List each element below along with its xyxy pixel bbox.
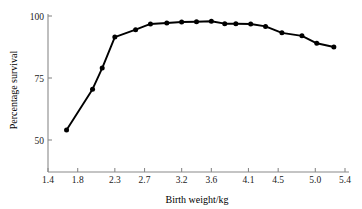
data-point-marker <box>64 128 69 133</box>
x-tick-label: 5.4 <box>339 175 351 185</box>
survival-line <box>67 21 334 130</box>
x-tick-label: 2.7 <box>139 175 151 185</box>
y-tick-label: 75 <box>35 74 45 84</box>
x-axis-ticks: 1.41.82.32.73.23.64.14.55.05.4 <box>42 168 351 185</box>
data-point-marker <box>100 66 105 71</box>
data-point-marker <box>179 19 184 24</box>
x-tick-label: 4.1 <box>243 175 255 185</box>
data-point-marker <box>299 33 304 38</box>
data-point-marker <box>263 24 268 29</box>
data-point-marker <box>148 21 153 26</box>
x-tick-label: 1.8 <box>72 175 84 185</box>
data-point-marker <box>164 20 169 25</box>
data-point-marker <box>233 21 238 26</box>
percentage-survival-line-chart: 1.41.82.32.73.23.64.14.55.05.4 1007550 B… <box>0 0 362 209</box>
data-point-marker <box>248 21 253 26</box>
x-tick-label: 1.4 <box>42 175 54 185</box>
data-point-marker <box>90 87 95 92</box>
data-point-marker <box>314 41 319 46</box>
x-tick-label: 5.0 <box>309 175 321 185</box>
x-tick-label: 4.5 <box>272 175 284 185</box>
y-axis-ticks: 1007550 <box>30 12 52 146</box>
data-point-marker <box>133 27 138 32</box>
data-series <box>64 19 336 133</box>
x-tick-label: 3.6 <box>205 175 217 185</box>
x-axis-title: Birth weight/kg <box>165 194 228 205</box>
data-point-marker <box>209 19 214 24</box>
chart-container: 1.41.82.32.73.23.64.14.55.05.4 1007550 B… <box>0 0 362 209</box>
y-tick-label: 50 <box>35 136 45 146</box>
data-point-marker <box>222 21 227 26</box>
x-tick-label: 3.2 <box>176 175 188 185</box>
data-point-marker <box>112 35 117 40</box>
data-point-marker <box>331 45 336 50</box>
y-tick-label: 100 <box>30 12 45 22</box>
x-tick-label: 2.3 <box>109 175 121 185</box>
data-point-marker <box>279 30 284 35</box>
y-axis-title: Percentage survival <box>8 50 19 129</box>
data-point-marker <box>194 19 199 24</box>
